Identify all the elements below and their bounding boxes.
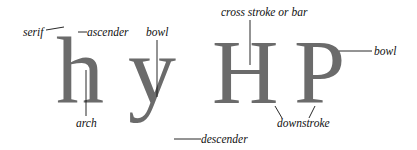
letter-H: H	[212, 21, 278, 123]
label-ascender: ascender	[87, 26, 129, 38]
label-descender: descender	[201, 133, 248, 145]
label-downstroke: downstroke	[277, 117, 330, 129]
label-arch: arch	[76, 117, 97, 129]
label-bowl-y: bowl	[146, 26, 168, 38]
letter-P: P	[294, 21, 345, 123]
label-bowl-p: bowl	[374, 45, 396, 57]
label-serif: serif	[23, 26, 45, 39]
label-cross-stroke: cross stroke or bar	[221, 6, 308, 18]
letter-anatomy-diagram: h y H P serif ascender arch bowl descend…	[0, 0, 417, 150]
